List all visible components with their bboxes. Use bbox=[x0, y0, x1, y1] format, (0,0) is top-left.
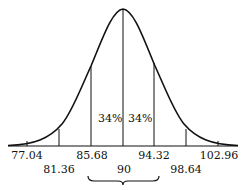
tick-label-98-64: 98.64 bbox=[170, 164, 202, 175]
tick-label-102-96: 102.96 bbox=[200, 150, 239, 161]
tick-label-85-68: 85.68 bbox=[76, 150, 108, 161]
percent-label-left: 34% bbox=[98, 113, 122, 124]
percent-label-right: 34% bbox=[128, 113, 152, 124]
tick-label-81-36: 81.36 bbox=[43, 164, 75, 175]
tick-label-90: 90 bbox=[117, 164, 131, 175]
tick-label-77-04: 77.04 bbox=[11, 150, 43, 161]
brace bbox=[88, 176, 159, 185]
tick-label-94-32: 94.32 bbox=[138, 150, 170, 161]
